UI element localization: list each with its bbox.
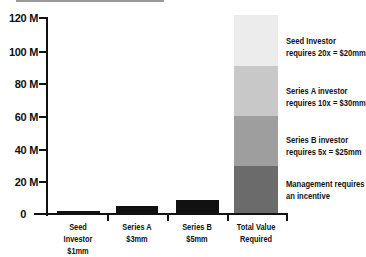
- annotation-line1: Series A investor: [286, 85, 366, 97]
- annotation-line2: an incentive: [286, 190, 366, 202]
- x-label-line2: $1mm: [55, 245, 102, 257]
- segment-management: [234, 166, 278, 213]
- x-tick: [227, 213, 229, 221]
- x-tick: [286, 213, 288, 221]
- bar-series-b: [176, 200, 219, 213]
- segment-series-a: [234, 66, 278, 116]
- x-tick: [107, 213, 109, 221]
- x-tick: [167, 213, 169, 221]
- x-label-line1: Seed Investor: [55, 221, 102, 245]
- bar-series-a: [116, 206, 158, 213]
- x-label-total: Total Value Required: [233, 221, 280, 245]
- annotation-line2: requires 10x = $30mm: [286, 97, 366, 109]
- x-label-line2: Required: [233, 233, 280, 245]
- annotation-line2: requires 5x = $25mm: [286, 146, 366, 158]
- x-label-line1: Series B: [174, 221, 221, 233]
- x-label-line2: $3mm: [114, 233, 161, 245]
- annotation-line1: Seed Investor: [286, 35, 366, 47]
- y-label-100: 100 M: [0, 46, 38, 58]
- x-label-line1: Series A: [114, 221, 161, 233]
- y-label-20: 20 M: [0, 176, 38, 188]
- bar-seed-investor: [57, 211, 100, 213]
- annotation-seed: Seed Investor requires 20x = $20mm: [286, 35, 366, 59]
- annotation-line1: Series B investor: [286, 134, 366, 146]
- y-label-60: 60 M: [0, 111, 38, 123]
- annotation-series-b: Series B investor requires 5x = $25mm: [286, 134, 366, 158]
- y-axis: [46, 17, 48, 216]
- x-axis: [34, 213, 287, 215]
- y-label-0: 0: [0, 208, 26, 220]
- x-label-seed: Seed Investor $1mm: [55, 221, 102, 257]
- segment-seed-investor: [234, 15, 278, 66]
- x-label-line1: Total Value: [233, 221, 280, 233]
- x-label-line2: $5mm: [174, 233, 221, 245]
- y-label-80: 80 M: [0, 78, 38, 90]
- x-label-series-b: Series B $5mm: [174, 221, 221, 245]
- segment-series-b: [234, 116, 278, 166]
- annotation-management: Management requires an incentive: [286, 178, 366, 202]
- annotation-line2: requires 20x = $20mm: [286, 47, 366, 59]
- x-label-series-a: Series A $3mm: [114, 221, 161, 245]
- y-label-40: 40 M: [0, 144, 38, 156]
- y-label-120: 120 M: [0, 12, 38, 24]
- annotation-series-a: Series A investor requires 10x = $30mm: [286, 85, 366, 109]
- annotation-line1: Management requires: [286, 178, 366, 190]
- top-rule: [16, 0, 164, 2]
